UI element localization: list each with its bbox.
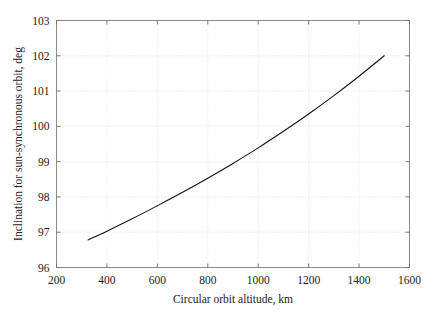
y-tick-label: 98 xyxy=(38,191,50,203)
x-tick-label: 1400 xyxy=(348,274,371,286)
x-tick-label: 1000 xyxy=(247,274,270,286)
x-axis-title: Circular orbit altitude, km xyxy=(173,293,293,306)
x-tick-label: 200 xyxy=(48,274,66,286)
y-tick-label: 100 xyxy=(32,120,50,132)
y-tick-label: 103 xyxy=(32,15,50,27)
x-tick-label: 1200 xyxy=(297,274,320,286)
x-tick-label: 800 xyxy=(199,274,217,286)
y-tick-label: 97 xyxy=(38,226,50,238)
y-tick-label: 99 xyxy=(38,156,50,168)
y-tick-label: 96 xyxy=(38,262,50,274)
x-tick-label: 400 xyxy=(98,274,116,286)
y-tick-label: 102 xyxy=(32,50,50,62)
chart-canvas: 2004006008001000120014001600 96979899100… xyxy=(0,0,437,317)
y-tick-label: 101 xyxy=(32,85,50,97)
x-tick-label: 600 xyxy=(149,274,167,286)
chart-figure: 2004006008001000120014001600 96979899100… xyxy=(0,0,437,317)
x-tick-label: 1600 xyxy=(398,274,421,286)
figure-background xyxy=(0,0,437,317)
y-axis-title: Inclination for sun-synchronous orbit, d… xyxy=(12,47,25,241)
